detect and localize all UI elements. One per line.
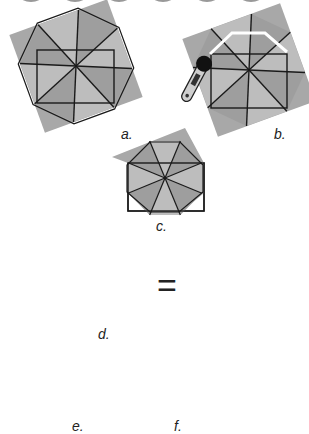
step-b-figure [177,3,309,136]
step-label-e: e. [72,418,84,434]
step-label-b: b. [274,126,286,142]
equals-sign: = [157,268,177,302]
diagram-canvas [0,0,309,434]
step-a-figure [7,0,144,135]
step-label-a: a. [121,126,133,142]
step-label-d: d. [98,326,110,342]
step-label-f: f. [174,418,182,434]
step-label-c: c. [156,218,167,234]
